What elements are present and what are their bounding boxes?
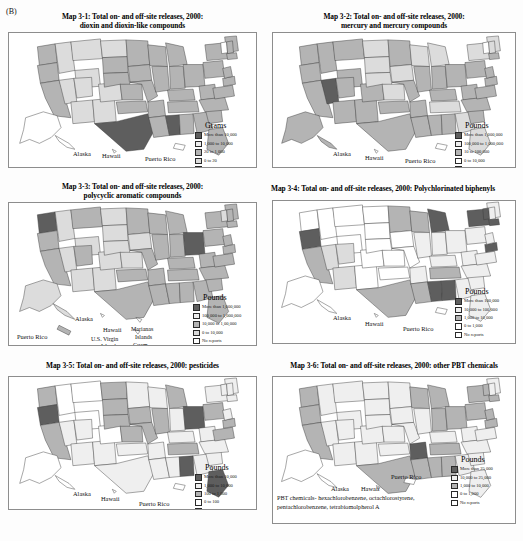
- legend-label-5: No reports: [204, 507, 224, 510]
- legend-3-2: Pounds More than 1,000,000 100,000 to 1,…: [455, 121, 503, 168]
- state-OH: [183, 233, 205, 256]
- state-WA: [299, 386, 319, 408]
- legend-label-4: 0 to 1,000: [460, 490, 479, 498]
- legend-title-3-5: Pounds: [195, 463, 237, 472]
- legend-title-3-4: Pounds: [455, 287, 499, 296]
- state-OR: [37, 63, 59, 84]
- legend-swatch-2: [195, 141, 202, 147]
- legend-title-3-3: Pounds: [193, 293, 241, 302]
- map-frame-3-5[interactable]: Alaska Hawaii Puerto Rico Pounds More th…: [8, 376, 257, 510]
- legend-row-4: 0 to 20: [195, 157, 237, 165]
- territory-PR: [435, 308, 447, 315]
- state-UT: [74, 420, 93, 441]
- map-title-3-5-line1: Map 3-5: Total on- and off-site releases…: [46, 361, 219, 370]
- state-OK: [378, 443, 410, 456]
- map-title-3-4: Map 3-4: Total on- and off-site releases…: [271, 178, 517, 193]
- legend-row-3: 100 to 1,000: [195, 490, 237, 498]
- state-MI: [166, 211, 188, 235]
- state-OK: [116, 101, 148, 114]
- legend-label-2: 100,000 to 1,000,000: [202, 312, 241, 320]
- state-OK: [116, 443, 148, 456]
- legend-label-5: No reports: [460, 499, 480, 507]
- legend-swatch-3: [195, 491, 202, 497]
- state-IN: [431, 67, 447, 90]
- state-AZ: [333, 100, 357, 124]
- state-OH: [445, 231, 467, 254]
- legend-swatch-5: [193, 338, 200, 344]
- place-label-puerto-rico: Puerto Rico: [17, 333, 47, 340]
- state-AZ: [71, 100, 95, 124]
- legend-row-4: 0 to 100: [195, 498, 237, 506]
- legend-label-2: 10,000 to 25,000: [460, 474, 491, 482]
- maps-grid: Map 3-1: Total on- and off-site releases…: [0, 0, 523, 541]
- map-frame-3-6[interactable]: Alaska Hawaii Puerto Rico PBT chemicals-…: [272, 376, 516, 524]
- map-frame-3-2[interactable]: Alaska Hawaii Puerto Rico Pounds More th…: [272, 32, 516, 168]
- legend-row-1: More than 10,000: [195, 473, 237, 481]
- state-NM: [355, 440, 379, 466]
- legend-row-3: 10 to 100,000: [455, 148, 503, 156]
- state-KY: [168, 258, 196, 270]
- state-KY: [167, 90, 195, 102]
- state-AK: [282, 276, 323, 308]
- state-UT: [74, 78, 93, 99]
- state-KS: [120, 85, 143, 101]
- legend-3-1: Grams More than 10,000 1,000 to 10,000 2…: [195, 121, 237, 168]
- state-MI: [166, 385, 188, 409]
- state-IA: [390, 407, 414, 425]
- legend-row-4: 0 to 10,000: [193, 329, 241, 337]
- place-label-alaska: Alaska: [333, 150, 351, 157]
- state-MN: [388, 40, 412, 67]
- state-AK-aleutians: [53, 304, 75, 320]
- legend-swatch-3: [455, 149, 462, 155]
- legend-label-3: 100 to 1,000: [204, 490, 227, 498]
- legend-swatch-2: [455, 141, 462, 147]
- state-AR: [410, 266, 428, 284]
- legend-swatch-1: [195, 132, 202, 138]
- state-VA: [213, 254, 235, 268]
- place-label-marianas-islands: Islands: [135, 334, 152, 340]
- state-MA: [227, 221, 238, 228]
- state-AR: [410, 100, 428, 118]
- state-AZ: [71, 268, 95, 292]
- state-KY: [429, 90, 457, 102]
- map-title-3-6-line1: Map 3-6: Total on- and off-site releases…: [290, 361, 497, 370]
- state-AK: [20, 452, 61, 484]
- map-frame-3-1[interactable]: Alaska Hawaii Puerto Rico Grams More tha…: [8, 32, 257, 168]
- map-title-3-5: Map 3-5: Total on- and off-site releases…: [6, 355, 259, 370]
- state-PA: [203, 403, 225, 421]
- legend-swatch-1: [455, 132, 462, 138]
- legend-row-5: No reports: [195, 165, 237, 168]
- state-HI: [374, 314, 378, 318]
- state-AK: [20, 280, 61, 312]
- state-VA: [475, 428, 497, 442]
- place-label-alaska: Alaska: [73, 150, 91, 157]
- legend-swatch-4: [195, 499, 202, 505]
- legend-row-5: No reports: [195, 507, 237, 510]
- state-AK-aleutians: [317, 300, 337, 314]
- map-frame-3-3[interactable]: Alaska Hawaii Puerto Rico Marianas Islan…: [8, 202, 257, 346]
- legend-label-3: 1,000 to 10,000: [460, 482, 489, 490]
- legend-label-1: More than 1,000,000: [464, 131, 503, 139]
- legend-swatch-1: [195, 474, 202, 480]
- map-cell-3-5: Map 3-5: Total on- and off-site releases…: [0, 355, 265, 541]
- map-frame-3-4[interactable]: Alaska Hawaii Puerto Rico Pounds More th…: [272, 200, 516, 344]
- map-title-3-3: Map 3-3: Total on- and off-site releases…: [6, 178, 259, 200]
- state-OR: [299, 229, 321, 250]
- state-AR: [148, 100, 166, 118]
- state-MT: [71, 381, 103, 403]
- state-VA: [213, 86, 235, 100]
- state-VA: [475, 86, 497, 100]
- state-KS: [120, 253, 143, 269]
- state-PA: [203, 229, 225, 247]
- legend-row-1: More than 1,000,000: [455, 131, 503, 139]
- map-cell-3-6: Map 3-6: Total on- and off-site releases…: [265, 355, 523, 541]
- place-label-puerto-rico: Puerto Rico: [405, 157, 435, 164]
- state-MA: [489, 395, 500, 402]
- map-title-3-1: Map 3-1: Total on- and off-site releases…: [6, 0, 259, 30]
- legend-swatch-3: [455, 315, 462, 321]
- legend-label-4: 0 to 1,000: [464, 322, 483, 330]
- state-UT: [336, 244, 355, 265]
- territory-PR: [435, 144, 447, 151]
- legend-3-4: Pounds More than 100,000 10,000 to 100,0…: [455, 287, 499, 339]
- state-IN: [169, 67, 185, 90]
